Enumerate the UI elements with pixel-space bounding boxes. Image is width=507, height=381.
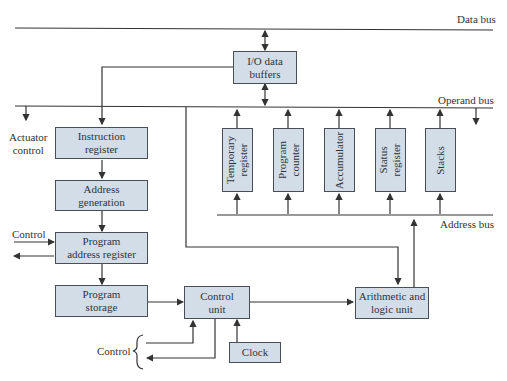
control-unit-block: Controlunit: [184, 286, 250, 319]
accumulator-block: Accumulator: [324, 128, 355, 192]
operand-bus-label: Operand bus: [438, 94, 494, 107]
actuator-control-label: Actuator control: [9, 131, 47, 157]
program-address-register-block: Programaddress register: [55, 232, 148, 264]
status-register-block: Statusregister: [375, 128, 406, 192]
data-bus-label: Data bus: [457, 13, 496, 26]
instruction-register-block: Instructionregister: [55, 127, 148, 159]
address-bus-label: Address bus: [440, 218, 494, 231]
control-bottom-label: Control: [97, 345, 131, 358]
program-storage-block: Programstorage: [55, 285, 148, 317]
io-data-buffers-block: I/O databuffers: [233, 51, 297, 84]
stacks-block: Stacks: [425, 128, 456, 192]
control-input-label: Control: [12, 228, 46, 241]
microprocessor-block-diagram: Data bus Operand bus Address bus Actuato…: [0, 0, 507, 381]
alu-block: Arithmetic andlogic unit: [355, 287, 429, 319]
address-generation-block: Addressgeneration: [55, 180, 148, 211]
program-counter-block: Programcounter: [273, 128, 304, 192]
clock-block: Clock: [229, 342, 281, 363]
temporary-register-block: Temporaryregister: [222, 128, 253, 192]
